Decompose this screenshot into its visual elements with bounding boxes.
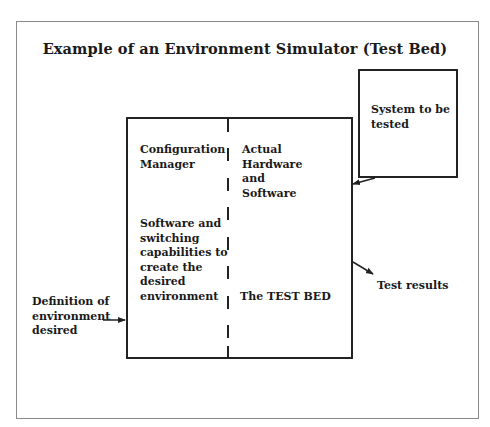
arrows-layer (0, 0, 490, 427)
test-results-arrow-icon (353, 262, 373, 274)
system-arrow-icon (353, 178, 375, 184)
